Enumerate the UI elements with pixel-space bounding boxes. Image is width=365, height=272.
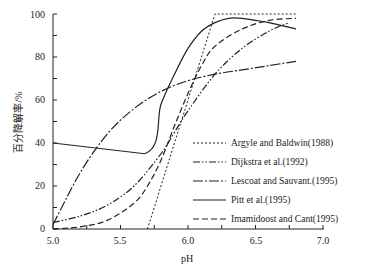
- legend: Argyle and Baldwin(1988) Dijkstra et al.…: [193, 138, 338, 225]
- legend-label: Pitt et al.(1995): [231, 195, 290, 206]
- x-axis-label: pH: [181, 253, 193, 264]
- legend-label: Imamidoost and Cant(1995): [231, 214, 338, 225]
- y-axis-label: 百分降解率/%: [12, 91, 24, 152]
- y-tick-label: 80: [35, 51, 45, 62]
- x-tick-label: 7.0: [317, 235, 330, 246]
- x-tick-label: 5.0: [47, 235, 60, 246]
- x-tick-label: 6.0: [182, 235, 195, 246]
- y-tick-label: 100: [30, 9, 45, 20]
- series-line: [53, 23, 289, 223]
- legend-label: Lescoat and Sauvant.(1995): [231, 176, 337, 187]
- y-tick-label: 60: [35, 94, 45, 105]
- x-tick-label: 5.5: [114, 235, 127, 246]
- y-tick-label: 20: [35, 180, 45, 191]
- line-chart: 0 20 40 60 80 100 5.0 5.5 6.0 6.5 7.0 pH…: [0, 0, 365, 272]
- y-tick-label: 0: [40, 223, 45, 234]
- legend-label: Dijkstra et al.(1992): [231, 157, 308, 168]
- legend-label: Argyle and Baldwin(1988): [231, 138, 333, 149]
- x-tick-label: 6.5: [250, 235, 263, 246]
- y-tick-labels: 0 20 40 60 80 100: [30, 9, 45, 234]
- x-tick-labels: 5.0 5.5 6.0 6.5 7.0: [47, 235, 330, 246]
- y-tick-label: 40: [35, 137, 45, 148]
